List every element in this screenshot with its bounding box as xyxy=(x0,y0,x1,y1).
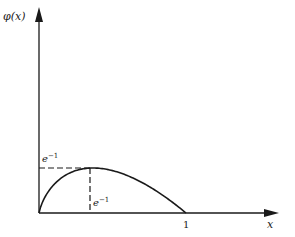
peak-x-label: e−1 xyxy=(93,196,109,208)
x-tick-1: 1 xyxy=(183,219,189,230)
peak-y-label: e−1 xyxy=(42,152,58,164)
phi-curve xyxy=(39,168,186,213)
y-axis-label: φ(x) xyxy=(3,10,26,23)
x-axis-arrow-icon xyxy=(264,209,279,217)
x-axis-label: x xyxy=(267,218,274,231)
y-axis-arrow-icon xyxy=(35,7,43,22)
chart: φ(x) x 1 e−1 e−1 xyxy=(0,0,295,237)
